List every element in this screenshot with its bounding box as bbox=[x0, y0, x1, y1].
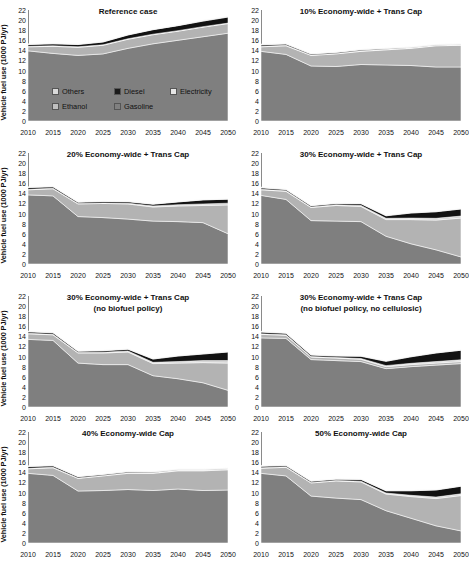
chart-panel-8: Vehicle fuel use (1000 PJ/yr)50% Economy… bbox=[233, 424, 465, 565]
chart-panel-7: Vehicle fuel use (1000 PJ/yr)40% Economy… bbox=[0, 424, 232, 565]
x-axis-ticks: 201020152020202520302035204020452050 bbox=[261, 550, 461, 560]
x-tick-label: 2040 bbox=[403, 128, 419, 138]
x-tick-label: 2010 bbox=[20, 128, 36, 138]
x-tick-label: 2020 bbox=[303, 414, 319, 424]
y-tick-label: 22 bbox=[251, 293, 259, 300]
x-tick-label: 2010 bbox=[253, 550, 269, 560]
y-tick-label: 14 bbox=[18, 469, 26, 476]
area-series-gasoline bbox=[261, 338, 461, 407]
y-tick-label: 2 bbox=[255, 107, 259, 114]
y-tick-label: 10 bbox=[18, 67, 26, 74]
y-tick-label: 4 bbox=[22, 97, 26, 104]
y-tick-label: 10 bbox=[251, 67, 259, 74]
y-tick-label: 2 bbox=[255, 250, 259, 257]
y-tick-label: 6 bbox=[22, 230, 26, 237]
x-tick-label: 2015 bbox=[278, 414, 294, 424]
legend-item-gasoline[interactable]: Gasoline bbox=[114, 101, 153, 111]
y-axis-ticks: 0246810121416182022 bbox=[243, 296, 259, 407]
legend-swatch-icon bbox=[52, 103, 59, 110]
y-axis-ticks: 0246810121416182022 bbox=[10, 432, 26, 543]
x-tick-label: 2040 bbox=[170, 550, 186, 560]
y-tick-label: 2 bbox=[255, 393, 259, 400]
x-axis-ticks: 201020152020202520302035204020452050 bbox=[28, 128, 228, 138]
x-tick-label: 2010 bbox=[253, 414, 269, 424]
chart-panel-6: Vehicle fuel use (1000 PJ/yr)30% Economy… bbox=[233, 288, 465, 429]
x-tick-label: 2015 bbox=[45, 271, 61, 281]
x-tick-label: 2030 bbox=[353, 271, 369, 281]
y-tick-label: 20 bbox=[251, 17, 259, 24]
y-tick-label: 22 bbox=[18, 429, 26, 436]
legend-item-diesel[interactable]: Diesel bbox=[114, 86, 145, 96]
plot-area bbox=[28, 432, 228, 543]
x-tick-label: 2050 bbox=[453, 550, 469, 560]
stacked-area-svg bbox=[261, 153, 461, 264]
y-tick-label: 6 bbox=[255, 373, 259, 380]
stacked-area-svg bbox=[261, 10, 461, 121]
x-tick-label: 2045 bbox=[428, 550, 444, 560]
legend-item-electricity[interactable]: Electricity bbox=[170, 86, 212, 96]
y-axis-ticks: 0246810121416182022 bbox=[10, 153, 26, 264]
y-axis-title: Vehicle fuel use (1000 PJ/yr) bbox=[0, 288, 10, 429]
plot-area bbox=[261, 432, 461, 543]
chart-panel-1: Vehicle fuel use (1000 PJ/yr)Reference c… bbox=[0, 2, 232, 143]
y-tick-label: 14 bbox=[18, 190, 26, 197]
y-tick-label: 18 bbox=[251, 313, 259, 320]
y-tick-label: 12 bbox=[251, 343, 259, 350]
y-tick-label: 18 bbox=[251, 27, 259, 34]
y-axis-ticks: 0246810121416182022 bbox=[243, 432, 259, 543]
legend-item-others[interactable]: Others bbox=[52, 86, 84, 96]
y-tick-label: 20 bbox=[251, 160, 259, 167]
x-tick-label: 2035 bbox=[145, 271, 161, 281]
x-tick-label: 2020 bbox=[70, 128, 86, 138]
y-tick-label: 20 bbox=[18, 160, 26, 167]
x-tick-label: 2035 bbox=[378, 271, 394, 281]
y-tick-label: 4 bbox=[255, 97, 259, 104]
x-tick-label: 2030 bbox=[120, 128, 136, 138]
y-tick-label: 0 bbox=[255, 540, 259, 547]
plot-area bbox=[261, 10, 461, 121]
legend-swatch-icon bbox=[114, 88, 121, 95]
chart-panel-2: Vehicle fuel use (1000 PJ/yr)10% Economy… bbox=[233, 2, 465, 143]
y-axis-ticks: 0246810121416182022 bbox=[10, 296, 26, 407]
x-tick-label: 2040 bbox=[170, 414, 186, 424]
x-axis-ticks: 201020152020202520302035204020452050 bbox=[261, 414, 461, 424]
y-tick-label: 8 bbox=[255, 499, 259, 506]
x-tick-label: 2030 bbox=[353, 550, 369, 560]
y-tick-label: 6 bbox=[255, 230, 259, 237]
y-tick-label: 0 bbox=[22, 261, 26, 268]
legend-item-label: Diesel bbox=[124, 87, 145, 96]
y-tick-label: 16 bbox=[18, 37, 26, 44]
x-tick-label: 2030 bbox=[120, 271, 136, 281]
stacked-area-svg bbox=[28, 153, 228, 264]
y-tick-label: 8 bbox=[22, 363, 26, 370]
y-tick-label: 4 bbox=[22, 383, 26, 390]
y-tick-label: 18 bbox=[251, 449, 259, 456]
stacked-area-svg bbox=[261, 296, 461, 407]
chart-legend: OthersDieselElectricityEthanolGasoline bbox=[52, 86, 212, 116]
y-tick-label: 22 bbox=[18, 293, 26, 300]
legend-item-label: Others bbox=[62, 87, 84, 96]
x-tick-label: 2035 bbox=[378, 550, 394, 560]
x-tick-label: 2050 bbox=[453, 128, 469, 138]
y-tick-label: 12 bbox=[18, 479, 26, 486]
y-tick-label: 0 bbox=[255, 404, 259, 411]
x-tick-label: 2025 bbox=[95, 271, 111, 281]
plot-area bbox=[261, 296, 461, 407]
y-tick-label: 20 bbox=[18, 17, 26, 24]
x-tick-label: 2040 bbox=[170, 128, 186, 138]
x-tick-label: 2045 bbox=[428, 128, 444, 138]
x-tick-label: 2045 bbox=[195, 271, 211, 281]
y-tick-label: 14 bbox=[251, 190, 259, 197]
y-tick-label: 8 bbox=[22, 220, 26, 227]
x-tick-label: 2020 bbox=[70, 271, 86, 281]
x-tick-label: 2020 bbox=[303, 128, 319, 138]
y-tick-label: 10 bbox=[18, 353, 26, 360]
y-tick-label: 2 bbox=[22, 393, 26, 400]
legend-item-ethanol[interactable]: Ethanol bbox=[52, 101, 87, 111]
y-tick-label: 6 bbox=[22, 87, 26, 94]
y-tick-label: 22 bbox=[251, 429, 259, 436]
x-tick-label: 2015 bbox=[45, 128, 61, 138]
y-tick-label: 20 bbox=[251, 303, 259, 310]
y-tick-label: 18 bbox=[18, 449, 26, 456]
y-tick-label: 22 bbox=[251, 150, 259, 157]
